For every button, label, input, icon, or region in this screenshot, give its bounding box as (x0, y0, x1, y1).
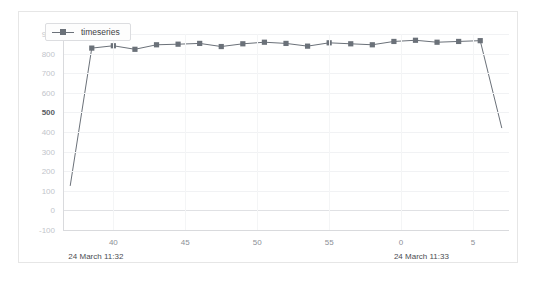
series-point-marker[interactable] (370, 42, 375, 47)
x-axis-tick-label: 50 (253, 238, 262, 247)
y-axis-tick-label: 400 (17, 128, 55, 137)
y-axis-line (63, 34, 64, 230)
series-point-marker[interactable] (283, 41, 288, 46)
y-axis-tick-label: 300 (17, 147, 55, 156)
series-point-marker[interactable] (197, 41, 202, 46)
series-point-marker[interactable] (456, 39, 461, 44)
y-axis-tick-label: 500 (17, 108, 55, 117)
series-point-marker[interactable] (348, 41, 353, 46)
plot-area (63, 34, 509, 230)
series-point-marker[interactable] (262, 40, 267, 45)
series-point-marker[interactable] (89, 46, 94, 51)
series-point-marker[interactable] (478, 38, 483, 43)
gridline-horizontal (63, 54, 509, 55)
series-point-marker[interactable] (154, 42, 159, 47)
chart-legend[interactable]: timeseries (45, 23, 131, 41)
x-axis-line (63, 230, 509, 231)
gridline-vertical (113, 34, 114, 230)
gridline-vertical (329, 34, 330, 230)
x-axis-tick-label: 45 (181, 238, 190, 247)
legend-marker-icon (52, 28, 74, 37)
gridline-horizontal (63, 132, 509, 133)
y-axis-tick-label: -100 (17, 226, 55, 235)
gridline-vertical (257, 34, 258, 230)
gridline-horizontal (63, 210, 509, 211)
x-axis-time-label: 24 March 11:33 (394, 252, 449, 261)
y-axis-tick-label: 800 (17, 49, 55, 58)
gridline-horizontal (63, 73, 509, 74)
gridline-vertical (401, 34, 402, 230)
x-axis-tick-label: 40 (109, 238, 118, 247)
chart-panel: 9008007006005004003002001000-100 4045505… (18, 11, 518, 263)
series-point-marker[interactable] (305, 44, 310, 49)
x-axis-tick-label: 5 (471, 238, 475, 247)
gridline-horizontal (63, 112, 509, 113)
gridline-horizontal (63, 93, 509, 94)
y-axis-tick-label: 700 (17, 69, 55, 78)
y-axis-tick-label: 100 (17, 186, 55, 195)
series-point-marker[interactable] (240, 41, 245, 46)
series-point-marker[interactable] (391, 39, 396, 44)
gridline-horizontal (63, 152, 509, 153)
x-axis-time-label: 24 March 11:32 (68, 252, 123, 261)
x-axis-tick-label: 0 (399, 238, 403, 247)
series-point-marker[interactable] (413, 38, 418, 43)
y-axis-tick-label: 0 (17, 206, 55, 215)
clipped-top-row (0, 0, 536, 11)
series-point-marker[interactable] (176, 42, 181, 47)
chart-screenshot: 9008007006005004003002001000-100 4045505… (0, 0, 536, 285)
gridline-horizontal (63, 191, 509, 192)
gridline-vertical (473, 34, 474, 230)
y-axis-tick-label: 200 (17, 167, 55, 176)
gridline-horizontal (63, 171, 509, 172)
series-point-marker[interactable] (434, 40, 439, 45)
series-point-marker[interactable] (219, 44, 224, 49)
x-axis-tick-label: 55 (325, 238, 334, 247)
gridline-vertical (185, 34, 186, 230)
y-axis-tick-label: 600 (17, 88, 55, 97)
legend-label: timeseries (81, 27, 120, 37)
series-point-marker[interactable] (132, 47, 137, 52)
